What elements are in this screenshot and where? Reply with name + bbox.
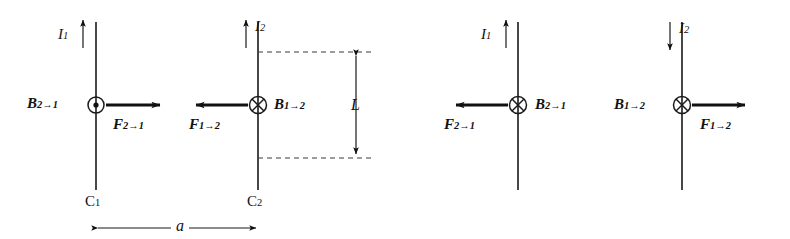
dimension-label-a: a	[171, 218, 189, 234]
field-label-b1to2-wire4: B1→2	[614, 97, 645, 112]
current-label-i1-c1: I1	[58, 27, 68, 42]
conductor-label-c2: C2	[247, 194, 262, 209]
field-label-b1to2-c2: B1→2	[274, 97, 305, 112]
force-label-f2to1-wire3: F2→1	[444, 117, 475, 132]
dimension-label-l: L	[351, 97, 360, 113]
conductor-label-c1: C1	[85, 194, 100, 209]
wire-4-group	[670, 22, 745, 190]
current-label-i2-wire4: I2	[679, 21, 689, 36]
wire-c2-group	[196, 20, 267, 190]
wire-c1-group	[83, 20, 160, 190]
current-label-i2-c2: I2	[255, 19, 265, 34]
force-label-f1to2-c2: F1→2	[189, 117, 220, 132]
force-label-f1to2-wire4: F1→2	[700, 117, 731, 132]
current-label-i1-wire3: I1	[481, 27, 491, 42]
wire-3-group	[456, 20, 527, 190]
force-label-f2to1-c1: F2→1	[113, 117, 144, 132]
field-label-b2to1-wire3: B2→1	[535, 97, 566, 112]
field-label-b2to1-c1: B2→1	[27, 96, 58, 111]
physics-diagram: I1 B2→1 F2→1 C1 I2 B1→2 F1→2 C2 L a I1 B…	[0, 0, 790, 239]
field-dot-center-c1	[93, 102, 98, 107]
